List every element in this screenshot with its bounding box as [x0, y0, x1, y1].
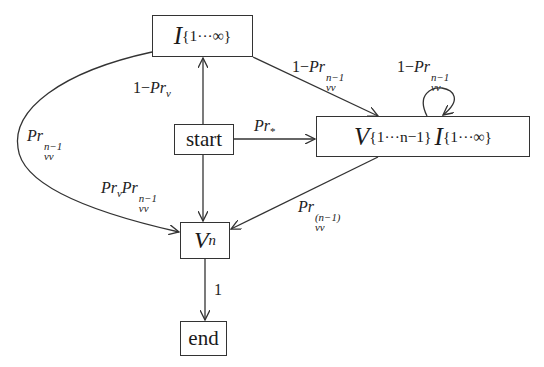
node-V-sup2: {1···∞} [443, 128, 492, 146]
node-start: start [174, 124, 234, 155]
node-V-base2: I [435, 123, 443, 151]
label-base1: Pr [101, 179, 117, 196]
label-prefix: 1− [133, 79, 150, 96]
label-prefix: 1− [292, 58, 309, 75]
label-sub: vv [44, 151, 62, 161]
label-V-to-Vn: Pr(n−1)vv [298, 199, 340, 232]
label-sub2: vv [139, 203, 157, 213]
label-base: Pr [27, 127, 43, 144]
edges-layer [0, 0, 544, 367]
node-I-sup: {1···∞} [182, 27, 231, 45]
node-start-label: start [186, 127, 222, 152]
node-end-label: end [188, 326, 218, 351]
label-start-to-Vn: PrvPrn−1vv [101, 180, 157, 213]
label-start-to-I: 1−Prv [133, 80, 171, 99]
node-end: end [180, 321, 227, 356]
label-start-to-V: Pr* [254, 118, 275, 137]
node-V: V{1···n−1}I{1···∞} [316, 116, 530, 157]
node-Vn-base: V [194, 227, 209, 254]
label-Vn-to-end: 1 [214, 282, 222, 298]
node-Vn-sup: n [209, 232, 216, 249]
node-I: I{1···∞} [152, 15, 253, 57]
label-V-self-loop: 1−Prn−1vv [397, 59, 449, 92]
label-I-to-Vn: Prn−1vv [27, 128, 62, 161]
label-sub: vv [326, 82, 344, 92]
label-base: Pr [414, 58, 430, 75]
node-V-base1: V [354, 123, 369, 151]
label-sub: vv [431, 82, 449, 92]
label-I-to-V: 1−Prn−1vv [292, 59, 344, 92]
label-base2: Pr [122, 179, 138, 196]
label-base: Pr [254, 117, 270, 134]
label-base: Pr [298, 198, 314, 215]
node-V-sup1: {1···n−1} [369, 128, 431, 146]
label-sub: * [270, 125, 275, 137]
label-prefix: 1− [397, 58, 414, 75]
label-sub: v [166, 87, 171, 99]
label-text: 1 [214, 281, 222, 298]
label-base: Pr [150, 79, 166, 96]
label-base: Pr [309, 58, 325, 75]
node-I-base: I [174, 22, 182, 50]
node-Vn: Vn [180, 222, 230, 259]
label-sub: vv [315, 222, 340, 232]
